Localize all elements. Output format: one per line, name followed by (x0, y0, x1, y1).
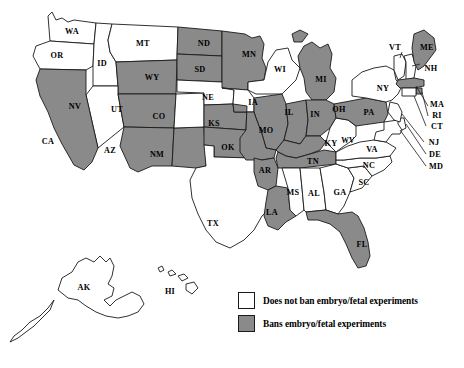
state-label-MS: MS (287, 188, 300, 197)
legend-swatch-white-icon (238, 292, 255, 309)
state-label-TX: TX (207, 219, 219, 228)
state-CO[interactable] (174, 93, 204, 128)
state-label-OK: OK (221, 143, 235, 152)
state-label-AR: AR (259, 166, 271, 175)
legend-label-does-not-ban: Does not ban embryo/fetal experiments (263, 296, 418, 306)
leader-line-DE (406, 124, 426, 154)
state-label-ND: ND (198, 39, 210, 48)
state-label-WV: WV (341, 136, 355, 145)
state-label-WA: WA (65, 27, 79, 36)
state-label-WI: WI (274, 65, 286, 74)
state-label-MI: MI (315, 75, 327, 84)
state-label-VA: VA (366, 145, 377, 154)
map-legend: Does not ban embryo/fetal experiments Ba… (238, 292, 462, 338)
state-MA[interactable] (396, 78, 424, 88)
state-AZ[interactable] (120, 127, 174, 172)
state-label-GA: GA (334, 188, 347, 197)
state-label-MD: MD (429, 162, 443, 171)
state-label-DE: DE (429, 150, 441, 159)
state-UT[interactable] (118, 94, 176, 128)
state-label-UT: UT (111, 105, 123, 114)
state-label-SD: SD (194, 65, 205, 74)
state-label-IA: IA (248, 98, 258, 107)
state-label-LA: LA (266, 208, 278, 217)
state-label-NM: NM (150, 150, 164, 159)
state-label-WY: WY (145, 73, 160, 82)
legend-label-bans: Bans embryo/fetal experiments (263, 319, 386, 329)
state-label-ME: ME (420, 43, 434, 52)
state-label-MO: MO (259, 126, 274, 135)
state-label-CO: CO (153, 112, 166, 121)
state-NJ[interactable] (388, 102, 402, 122)
state-label-PA: PA (364, 108, 375, 117)
state-MI[interactable] (292, 30, 336, 100)
state-label-AL: AL (308, 189, 320, 198)
state-label-MN: MN (242, 50, 256, 59)
state-label-IN: IN (310, 110, 320, 119)
state-label-AK: AK (78, 283, 91, 292)
state-label-NC: NC (363, 161, 375, 170)
state-NM[interactable] (172, 127, 206, 168)
state-label-ID: ID (97, 59, 107, 68)
legend-item-bans: Bans embryo/fetal experiments (238, 315, 462, 332)
legend-item-does-not-ban: Does not ban embryo/fetal experiments (238, 292, 462, 309)
state-OR[interactable] (33, 41, 94, 70)
state-label-RI: RI (432, 111, 442, 120)
state-label-MT: MT (136, 39, 150, 48)
state-AK[interactable] (10, 256, 144, 342)
state-label-TN: TN (307, 157, 319, 166)
state-label-FL: FL (356, 240, 367, 249)
state-CA[interactable] (36, 69, 98, 170)
state-label-IL: IL (284, 108, 293, 117)
state-label-CA: CA (42, 137, 54, 146)
state-label-OH: OH (332, 105, 346, 114)
state-label-AZ: AZ (104, 146, 116, 155)
state-CT[interactable] (402, 88, 416, 96)
state-label-MA: MA (430, 100, 444, 109)
state-label-CT: CT (431, 122, 443, 131)
state-label-SC: SC (358, 178, 369, 187)
state-label-NE: NE (202, 93, 214, 102)
state-label-NJ: NJ (429, 138, 440, 147)
state-label-KY: KY (325, 139, 338, 148)
state-label-NH: NH (425, 64, 438, 73)
legend-swatch-gray-icon (238, 315, 255, 332)
state-label-OR: OR (51, 51, 64, 60)
state-label-HI: HI (165, 287, 175, 296)
state-label-VT: VT (389, 43, 401, 52)
state-label-NY: NY (377, 84, 389, 93)
state-label-KS: KS (208, 119, 220, 128)
state-label-NV: NV (69, 102, 81, 111)
